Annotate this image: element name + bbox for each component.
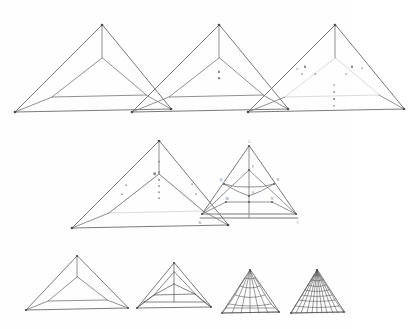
vertex-label-P: P <box>252 165 254 169</box>
connector-edges <box>26 256 128 310</box>
vertex-label-C: C <box>297 221 300 225</box>
scattered-marker-group <box>297 66 363 107</box>
panel-8-mesh-level-2 <box>219 266 285 322</box>
panel-3-triangle-with-scattered-node-marks <box>238 12 410 117</box>
vertex-label-A: A <box>248 140 251 144</box>
panel-6-mesh-level-0 <box>22 250 137 322</box>
inner-triangle-edges-faint <box>109 174 203 213</box>
inner-triangle-edges-faint <box>285 58 379 97</box>
panel-7-mesh-level-1 <box>134 258 219 320</box>
vertex-label-B: B <box>199 221 202 225</box>
base-band-edges <box>222 308 279 313</box>
vertex-label-R: R <box>277 178 280 182</box>
vertex-label-N: N <box>271 197 274 201</box>
outer-triangle-edges <box>248 25 404 112</box>
vertex-label-S: S <box>252 191 254 195</box>
y-subdivision-edges <box>154 272 195 302</box>
inner-triangle-edges <box>48 277 107 301</box>
radial-edges <box>232 270 268 313</box>
interior-marker-group <box>218 71 220 80</box>
panel-5-labeled-triangle-construction: A B C P Q R S M N <box>196 140 306 228</box>
vertex-label-M: M <box>225 197 229 201</box>
vertex-nodes <box>221 269 280 314</box>
vertex-nodes <box>247 24 406 114</box>
connector-edges <box>248 25 404 112</box>
outer-triangle-edges <box>222 270 279 313</box>
panel-9-mesh-level-3 <box>288 266 350 322</box>
vertex-label-Q: Q <box>220 178 223 182</box>
